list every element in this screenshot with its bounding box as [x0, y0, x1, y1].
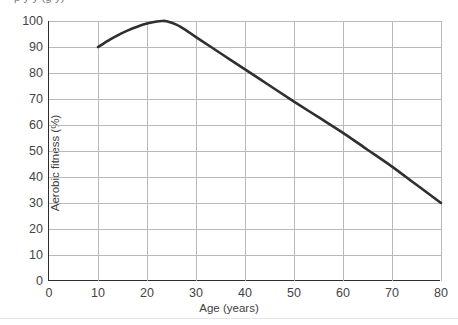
y-tick-label: 10: [29, 249, 43, 262]
x-tick-label: 80: [434, 287, 448, 300]
aerobic-fitness-line-chart: Aerobic fitness (%) 01020304050607080901…: [0, 0, 458, 325]
x-tick-label: 10: [91, 287, 105, 300]
x-tick-label: 0: [46, 287, 53, 300]
y-tick-label: 70: [29, 93, 43, 106]
y-tick-label: 60: [29, 119, 43, 132]
x-tick-label: 70: [385, 287, 399, 300]
x-axis-title: Age (years): [0, 302, 458, 314]
x-tick-label: 20: [140, 287, 154, 300]
aerobic-fitness-curve: [98, 21, 441, 203]
y-tick-label: 100: [22, 15, 43, 28]
gridline-vertical: [441, 21, 442, 281]
data-curve-layer: [49, 21, 441, 281]
y-tick-label: 40: [29, 171, 43, 184]
y-tick-label: 50: [29, 145, 43, 158]
bottom-divider: [0, 318, 458, 319]
x-tick-label: 50: [287, 287, 301, 300]
y-tick-label: 30: [29, 197, 43, 210]
plot-area: 0102030405060708090100 01020304050607080: [48, 21, 440, 281]
y-tick-label: 80: [29, 67, 43, 80]
x-tick-label: 40: [238, 287, 252, 300]
x-tick-label: 60: [336, 287, 350, 300]
y-tick-label: 20: [29, 223, 43, 236]
y-tick-label: 90: [29, 41, 43, 54]
x-tick-label: 30: [189, 287, 203, 300]
y-tick-label: 0: [36, 275, 43, 288]
